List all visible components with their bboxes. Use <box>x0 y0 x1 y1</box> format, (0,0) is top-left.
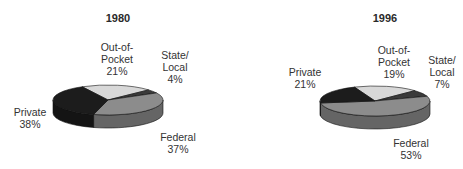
pie-chart-1980 <box>53 85 163 128</box>
pie-charts-canvas <box>0 0 463 169</box>
pie-chart-1996 <box>320 86 430 129</box>
